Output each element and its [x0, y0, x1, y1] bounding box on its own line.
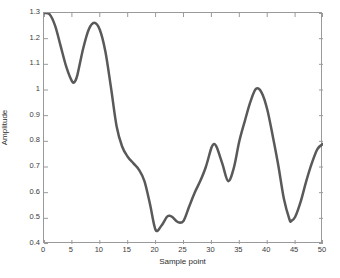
- x-axis-title: Sample point: [43, 257, 322, 266]
- y-tick-label: 1.2: [8, 34, 40, 42]
- chart-figure: 0.40.50.60.70.80.911.11.21.3 05101520253…: [0, 0, 340, 278]
- y-tick-label: 1.3: [8, 8, 40, 16]
- y-tick-label: 0.5: [8, 213, 40, 221]
- x-tick-label: 30: [197, 245, 223, 254]
- y-tick-label: 0.6: [8, 188, 40, 196]
- x-tick-label: 15: [114, 245, 140, 254]
- x-tick-label: 0: [30, 245, 56, 254]
- x-tick-label: 5: [58, 245, 84, 254]
- x-tick-label: 20: [142, 245, 168, 254]
- y-tick-label: 0.9: [8, 111, 40, 119]
- x-axis-tick-labels: 05101520253035404550: [43, 245, 322, 257]
- line-chart-svg: [44, 13, 323, 244]
- y-axis-title: Amplitude: [0, 12, 12, 243]
- x-tick-label: 40: [253, 245, 279, 254]
- data-series-line: [44, 13, 323, 231]
- x-tick-label: 35: [225, 245, 251, 254]
- y-tick-label: 0.8: [8, 136, 40, 144]
- x-tick-label: 45: [281, 245, 307, 254]
- y-tick-label: 0.7: [8, 162, 40, 170]
- plot-area: [43, 12, 322, 243]
- y-tick-label: 1: [8, 85, 40, 93]
- x-tick-label: 50: [309, 245, 335, 254]
- x-tick-label: 10: [86, 245, 112, 254]
- axis-ticks: [44, 13, 323, 244]
- y-tick-label: 1.1: [8, 59, 40, 67]
- x-tick-label: 25: [170, 245, 196, 254]
